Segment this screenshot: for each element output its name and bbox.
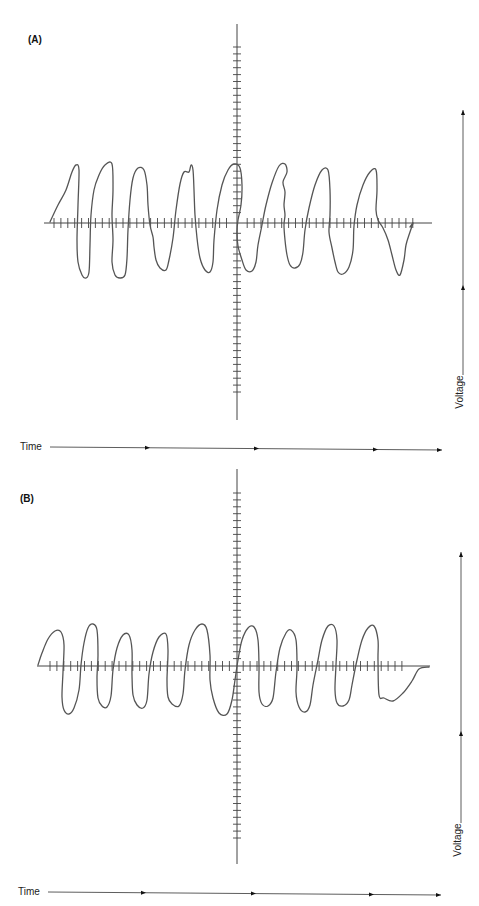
time-arrow-line: [50, 447, 442, 450]
panel-a-waveform: [50, 162, 413, 278]
panel-b-axes: [37, 469, 430, 864]
panel-b-voltage-label: Voltage: [452, 823, 463, 857]
arrowhead-icon: [141, 891, 146, 895]
panel-a-label: (A): [28, 34, 42, 45]
panel-a-time-label: Time: [20, 441, 42, 452]
panel-a-voltage-arrow: [461, 110, 465, 375]
figure-canvas: (A) Voltage Time (B) Voltage Time: [0, 0, 479, 906]
arrowhead-icon: [373, 447, 378, 451]
panel-b: (B) Voltage Time: [18, 469, 463, 897]
arrowhead-icon: [251, 892, 256, 896]
arrowhead-icon: [254, 447, 259, 451]
panel-b-time-arrow: [48, 891, 441, 897]
arrowhead-icon: [461, 110, 465, 115]
arrowhead-icon: [369, 892, 374, 896]
panel-b-voltage-arrow: [459, 552, 463, 823]
time-arrow-line: [48, 892, 441, 895]
panel-a: (A) Voltage Time: [20, 24, 465, 452]
arrowhead-icon: [436, 893, 441, 897]
panel-a-voltage-label: Voltage: [454, 375, 465, 409]
panel-a-time-arrow: [50, 446, 442, 452]
panel-b-time-label: Time: [18, 886, 40, 897]
arrowhead-icon: [459, 552, 463, 557]
arrowhead-icon: [461, 285, 465, 290]
arrowhead-icon: [459, 731, 463, 736]
panel-b-label: (B): [20, 493, 34, 504]
arrowhead-icon: [437, 448, 442, 452]
arrowhead-icon: [145, 446, 150, 450]
